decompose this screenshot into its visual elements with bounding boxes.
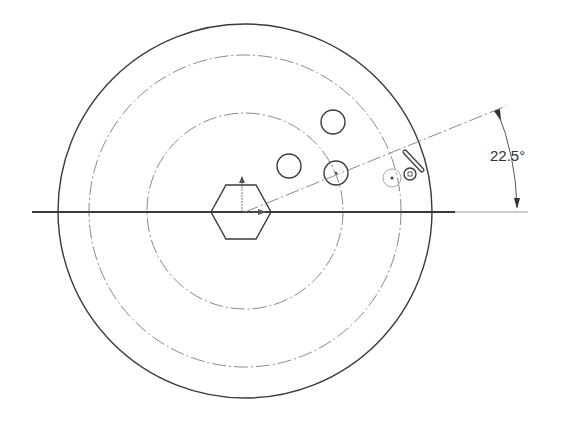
origin-x-arrow-icon — [258, 209, 266, 215]
outer-circle[interactable] — [58, 24, 432, 398]
sketch-canvas[interactable] — [0, 0, 568, 421]
hole-top[interactable] — [321, 110, 345, 134]
dimension-arrow-bottom-icon — [514, 198, 520, 209]
middle-construction-circle[interactable] — [89, 55, 401, 367]
hole-center-point — [335, 172, 337, 174]
dimension-arrow-top-icon — [494, 109, 501, 121]
inner-construction-circle[interactable] — [147, 113, 343, 309]
sketch-circle-cursor-icon — [404, 152, 422, 180]
hole-preview-center — [391, 177, 394, 180]
angle-construction-line[interactable] — [245, 106, 506, 212]
angle-dimension-label[interactable]: 22.5° — [490, 147, 525, 164]
origin-y-arrow-icon — [239, 176, 245, 183]
hole-left[interactable] — [277, 154, 301, 178]
